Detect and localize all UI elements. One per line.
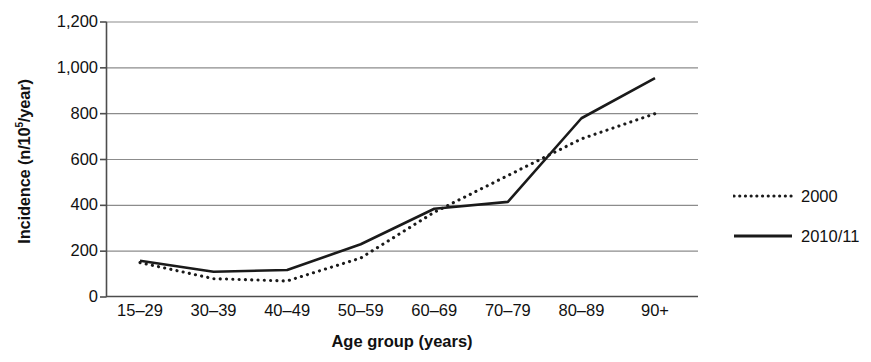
y-tick-label: 1,200	[36, 12, 98, 31]
x-axis-title: Age group (years)	[106, 332, 698, 351]
incidence-by-age-line-chart: Incidence (n/105/year) 02004006008001,00…	[0, 0, 871, 362]
y-tick-label: 0	[36, 287, 98, 306]
y-tick-label: 200	[36, 241, 98, 260]
y-tick-label: 1,000	[36, 58, 98, 77]
y-axis-title: Incidence (n/105/year)	[15, 32, 34, 292]
y-tick-label: 400	[36, 195, 98, 214]
x-tick-label: 70–79	[485, 301, 531, 320]
plot-area	[106, 22, 698, 297]
y-axis-title-main: Incidence (n/10	[15, 128, 33, 244]
x-axis-tick-labels: 15–2930–3940–4950–5960–6970–7980–8990+	[106, 301, 698, 327]
y-tick-label: 800	[36, 104, 98, 123]
legend-dotted-line-icon	[733, 190, 793, 202]
y-axis-tick-labels: 02004006008001,0001,200	[36, 0, 98, 362]
x-tick-label: 30–39	[191, 301, 237, 320]
x-tick-label: 40–49	[264, 301, 310, 320]
y-axis-title-tail: /year)	[15, 79, 33, 122]
series-line-2010-11	[140, 78, 655, 272]
x-tick-label: 90+	[641, 301, 669, 320]
x-tick-label: 80–89	[558, 301, 604, 320]
legend-label: 2010/11	[801, 227, 859, 246]
x-tick-label: 60–69	[411, 301, 457, 320]
series-line-2000	[140, 114, 655, 281]
legend-label: 2000	[801, 187, 838, 206]
plot-svg	[106, 22, 698, 297]
legend-item: 2010/11	[733, 216, 871, 256]
legend-item: 2000	[733, 176, 871, 216]
legend-solid-line-icon	[733, 230, 793, 242]
chart-legend: 20002010/11	[733, 176, 871, 256]
x-tick-label: 50–59	[338, 301, 384, 320]
y-axis-title-superscript: 5	[14, 122, 25, 127]
y-tick-label: 600	[36, 150, 98, 169]
x-tick-label: 15–29	[117, 301, 163, 320]
